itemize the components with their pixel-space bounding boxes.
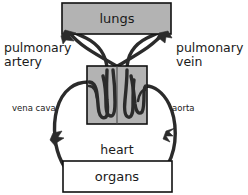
pulmonary-vein-label-line1: pulmonary bbox=[176, 40, 244, 55]
lungs-box-label: lungs bbox=[99, 11, 134, 26]
arrowhead-aorta-icon bbox=[163, 128, 175, 142]
pulmonary-artery-label-line1: pulmonary bbox=[4, 40, 72, 55]
pulmonary-vein-label: pulmonary vein bbox=[176, 40, 244, 69]
circulation-diagram-page: lungs organs bbox=[0, 0, 248, 195]
aorta-label: aorta bbox=[172, 103, 194, 113]
pulmonary-artery-label: pulmonary artery bbox=[4, 40, 72, 69]
pulmonary-artery-label-line2: artery bbox=[4, 54, 43, 69]
lungs-box: lungs bbox=[62, 3, 171, 34]
heart-label: heart bbox=[100, 142, 133, 157]
organs-box-label: organs bbox=[95, 169, 140, 184]
vena-cava-label: vena cava bbox=[12, 103, 56, 113]
pulmonary-vein-label-line2: vein bbox=[176, 54, 202, 69]
organs-box: organs bbox=[63, 161, 172, 192]
diagram-canvas: lungs organs bbox=[0, 0, 248, 195]
